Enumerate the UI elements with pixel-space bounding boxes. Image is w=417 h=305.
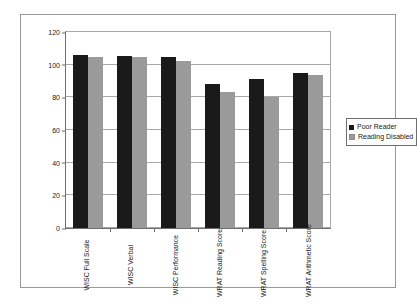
bar-group bbox=[110, 32, 154, 228]
plot-area: 020406080100120 bbox=[65, 31, 331, 229]
legend-swatch-icon bbox=[349, 125, 354, 130]
bar-poor-reader bbox=[117, 56, 132, 228]
bar-reading-disabled bbox=[220, 92, 235, 228]
bar-poor-reader bbox=[73, 55, 88, 228]
chart-legend: Poor ReaderReading Disabled bbox=[346, 118, 417, 146]
bar-reading-disabled bbox=[264, 97, 279, 228]
x-axis-category-labels: WISC Full ScaleWISC VerbalWISC Performan… bbox=[65, 233, 331, 301]
legend-entry: Reading Disabled bbox=[349, 132, 413, 142]
bar-group bbox=[242, 32, 286, 228]
y-axis-tick-label: 80 bbox=[52, 94, 66, 101]
bar-reading-disabled bbox=[132, 57, 147, 228]
x-axis-label-cell: WISC Verbal bbox=[109, 233, 153, 301]
bar-poor-reader bbox=[249, 79, 264, 228]
x-axis-label-cell: WRAT Arithmetic Score bbox=[287, 233, 331, 301]
bar-poor-reader bbox=[161, 57, 176, 229]
x-axis-category-label: WISC Performance bbox=[172, 233, 180, 297]
bar-series-container bbox=[66, 32, 330, 228]
bar-poor-reader bbox=[205, 84, 220, 228]
chart-frame: 020406080100120 WISC Full ScaleWISC Verb… bbox=[20, 14, 396, 288]
x-axis-category-label: WRAT Spelling Score bbox=[260, 233, 268, 297]
bar-poor-reader bbox=[293, 73, 308, 228]
bar-reading-disabled bbox=[308, 75, 323, 228]
x-axis-category-label: WISC Full Scale bbox=[83, 233, 91, 297]
x-axis-category-label: WRAT Reading Score bbox=[216, 233, 224, 297]
y-axis-tick-label: 20 bbox=[52, 192, 66, 199]
y-axis-tick-label: 0 bbox=[56, 225, 66, 232]
bar-reading-disabled bbox=[88, 57, 103, 228]
x-axis-label-cell: WRAT Spelling Score bbox=[242, 233, 286, 301]
bar-group bbox=[154, 32, 198, 228]
x-axis-label-cell: WISC Performance bbox=[154, 233, 198, 301]
y-axis-tick-label: 40 bbox=[52, 159, 66, 166]
legend-label: Poor Reader bbox=[357, 122, 397, 132]
legend-entry: Poor Reader bbox=[349, 122, 413, 132]
x-axis-category-label: WISC Verbal bbox=[127, 233, 135, 297]
legend-swatch-icon bbox=[349, 134, 355, 140]
x-axis-label-cell: WRAT Reading Score bbox=[198, 233, 242, 301]
y-axis-tick-label: 120 bbox=[48, 29, 66, 36]
bar-reading-disabled bbox=[176, 61, 191, 228]
legend-label: Reading Disabled bbox=[358, 132, 413, 142]
x-axis-label-cell: WISC Full Scale bbox=[65, 233, 109, 301]
bar-group bbox=[286, 32, 330, 228]
bar-group bbox=[198, 32, 242, 228]
x-axis-category-label: WRAT Arithmetic Score bbox=[305, 233, 313, 297]
bar-group bbox=[66, 32, 110, 228]
y-axis-tick-label: 60 bbox=[52, 127, 66, 134]
y-axis-tick-label: 100 bbox=[48, 61, 66, 68]
